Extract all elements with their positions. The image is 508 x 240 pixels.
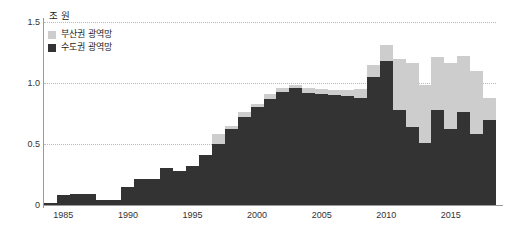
bar-segment [147, 179, 160, 205]
bar-column[interactable] [186, 22, 199, 205]
stacked-bar-chart: 조 원 00.51.01.5 1985199019952000200520102… [0, 0, 508, 240]
y-tick-label: 0.5 [4, 140, 40, 149]
bar-segment [406, 63, 419, 126]
bar-column[interactable] [96, 22, 109, 205]
bar-segment [212, 144, 225, 205]
bar-column[interactable] [134, 22, 147, 205]
bar-segment [238, 112, 251, 117]
plot-area [44, 22, 496, 205]
y-axis-unit-label: 조 원 [49, 11, 70, 21]
y-tick-label: 1.5 [4, 18, 40, 27]
bar-segment [341, 90, 354, 96]
bar-column[interactable] [406, 22, 419, 205]
bar-segment [109, 200, 122, 205]
bar-column[interactable] [251, 22, 264, 205]
bar-segment [238, 117, 251, 205]
bar-segment [354, 89, 367, 98]
bar-column[interactable] [83, 22, 96, 205]
bar-segment [367, 77, 380, 205]
bar-column[interactable] [238, 22, 251, 205]
bar-column[interactable] [57, 22, 70, 205]
bar-segment [289, 85, 302, 87]
bar-segment [470, 134, 483, 205]
bar-segment [315, 89, 328, 94]
bar-column[interactable] [380, 22, 393, 205]
bar-segment [393, 110, 406, 205]
bar-segment [264, 99, 277, 205]
bar-column[interactable] [302, 22, 315, 205]
bar-column[interactable] [173, 22, 186, 205]
bar-segment [186, 166, 199, 205]
bar-segment [96, 200, 109, 205]
bar-column[interactable] [199, 22, 212, 205]
x-tick-label: 2010 [376, 211, 396, 220]
bar-segment [251, 107, 264, 205]
y-tick-label: 0 [4, 201, 40, 210]
bar-segment [380, 61, 393, 205]
bar-segment [199, 155, 212, 205]
bar-segment [354, 98, 367, 205]
bar-column[interactable] [121, 22, 134, 205]
bar-column[interactable] [367, 22, 380, 205]
bar-segment [431, 110, 444, 205]
bar-column[interactable] [393, 22, 406, 205]
x-tick-label: 2000 [247, 211, 267, 220]
bar-segment [444, 129, 457, 205]
bar-segment [341, 96, 354, 205]
bar-segment [470, 71, 483, 134]
bar-column[interactable] [457, 22, 470, 205]
bar-segment [212, 134, 225, 144]
bar-column[interactable] [70, 22, 83, 205]
x-tick-label: 2005 [312, 211, 332, 220]
bar-column[interactable] [264, 22, 277, 205]
bar-segment [44, 203, 57, 205]
bar-segment [483, 120, 496, 205]
bar-column[interactable] [212, 22, 225, 205]
bar-segment [70, 194, 83, 205]
bar-segment [302, 88, 315, 93]
bar-column[interactable] [289, 22, 302, 205]
bar-column[interactable] [315, 22, 328, 205]
bar-segment [276, 92, 289, 205]
bar-segment [457, 56, 470, 112]
bar-column[interactable] [419, 22, 432, 205]
bar-column[interactable] [444, 22, 457, 205]
bar-column[interactable] [225, 22, 238, 205]
bar-segment [57, 195, 70, 205]
bar-segment [483, 98, 496, 120]
bar-column[interactable] [160, 22, 173, 205]
x-tick-label: 2015 [441, 211, 461, 220]
x-tick-label: 1985 [53, 211, 73, 220]
bar-segment [302, 93, 315, 205]
bar-segment [457, 112, 470, 205]
bar-segment [160, 168, 173, 205]
bar-segment [225, 129, 238, 205]
bar-segment [444, 63, 457, 129]
bar-segment [83, 194, 96, 205]
bar-column[interactable] [483, 22, 496, 205]
bar-segment [380, 45, 393, 61]
bar-segment [173, 171, 186, 205]
bar-column[interactable] [44, 22, 57, 205]
bar-segment [289, 88, 302, 205]
x-tick-label: 1995 [182, 211, 202, 220]
bar-column[interactable] [470, 22, 483, 205]
bar-segment [315, 94, 328, 205]
bar-column[interactable] [147, 22, 160, 205]
bar-segment [276, 88, 289, 92]
bar-segment [393, 59, 406, 110]
bar-segment [419, 85, 432, 142]
bar-segment [328, 95, 341, 205]
bar-column[interactable] [109, 22, 122, 205]
bar-segment [328, 90, 341, 95]
bar-segment [134, 179, 147, 205]
bar-segment [419, 143, 432, 205]
bar-column[interactable] [328, 22, 341, 205]
bar-column[interactable] [341, 22, 354, 205]
bar-column[interactable] [354, 22, 367, 205]
bar-column[interactable] [276, 22, 289, 205]
bar-segment [264, 94, 277, 99]
x-tick-label: 1990 [118, 211, 138, 220]
y-axis-ticks: 00.51.01.5 [0, 0, 40, 240]
bar-column[interactable] [431, 22, 444, 205]
